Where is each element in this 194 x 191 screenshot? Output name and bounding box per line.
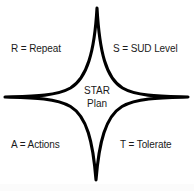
label-top-left-repeat: R = Repeat (11, 43, 61, 55)
center-label-line2: Plan (0, 98, 194, 111)
label-bottom-right-tolerate: T = Tolerate (120, 139, 172, 151)
label-top-right-sud-level: S = SUD Level (113, 43, 178, 55)
diagram-canvas: STAR Plan R = Repeat S = SUD Level A = A… (0, 0, 194, 191)
bottom-edge-band (0, 184, 194, 191)
label-bottom-left-actions: A = Actions (11, 139, 60, 151)
center-label: STAR Plan (0, 85, 194, 110)
center-label-line1: STAR (0, 85, 194, 98)
